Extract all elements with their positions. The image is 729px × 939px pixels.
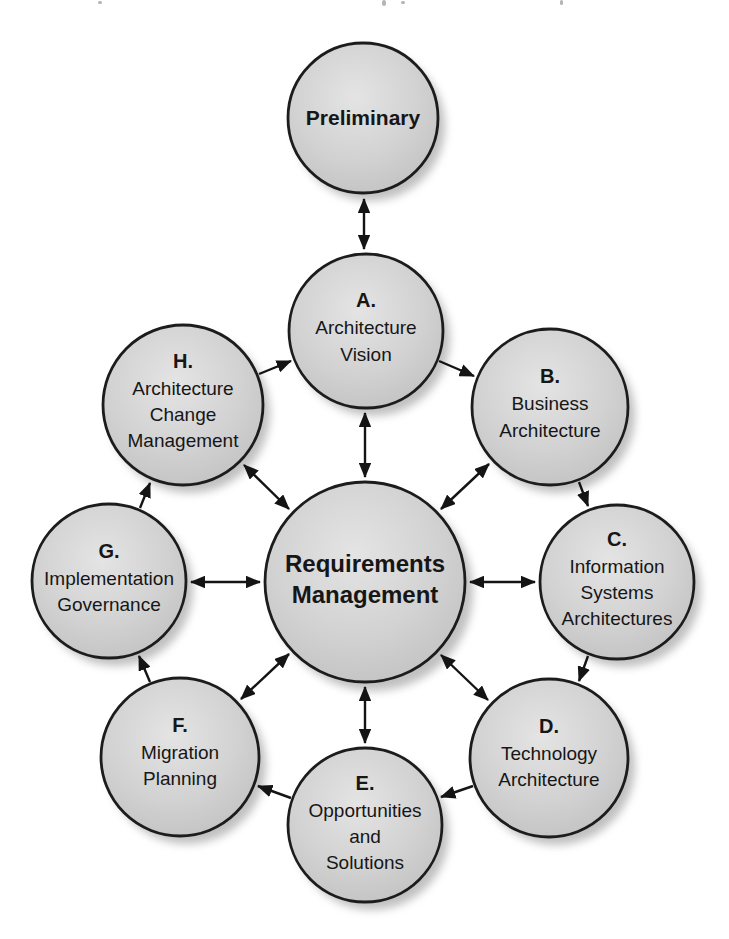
- phase-a-letter: A.: [356, 289, 376, 311]
- phase-f-line: Migration: [141, 742, 219, 763]
- hub-line: Management: [292, 581, 439, 608]
- phase-e-line: Solutions: [326, 852, 404, 873]
- phase-e-line: and: [349, 826, 381, 847]
- phase-c-line: Systems: [581, 582, 654, 603]
- phase-a-line: Vision: [340, 344, 391, 365]
- phase-e-line: Opportunities: [308, 800, 421, 821]
- phase-b-line: Business: [511, 393, 588, 414]
- phase-d-line: Technology: [501, 743, 598, 764]
- phase-c-letter: C.: [607, 528, 627, 550]
- phase-d-line: Architecture: [498, 769, 599, 790]
- phase-c-line: Information: [569, 556, 664, 577]
- preliminary-label: Preliminary: [306, 106, 421, 129]
- phase-e-letter: E.: [356, 772, 375, 794]
- phase-b-line: Architecture: [499, 420, 600, 441]
- phase-h-line: Change: [150, 404, 217, 425]
- phase-d-letter: D.: [539, 715, 559, 737]
- phase-h-line: Architecture: [132, 378, 233, 399]
- phase-f-letter: F.: [172, 714, 188, 736]
- phase-h-line: Management: [128, 430, 240, 451]
- phase-g-line: Governance: [57, 594, 161, 615]
- phase-g-line: Implementation: [44, 568, 174, 589]
- hub-line: Requirements: [285, 550, 445, 577]
- phase-c-line: Architectures: [562, 608, 673, 629]
- phase-f-line: Planning: [143, 768, 217, 789]
- phase-g-letter: G.: [98, 540, 119, 562]
- phase-h-letter: H.: [173, 350, 193, 372]
- phase-b-letter: B.: [540, 365, 560, 387]
- phase-a-line: Architecture: [315, 317, 416, 338]
- adm-cycle-diagram: Preliminary A. Architecture Vision H. Ar…: [0, 0, 729, 939]
